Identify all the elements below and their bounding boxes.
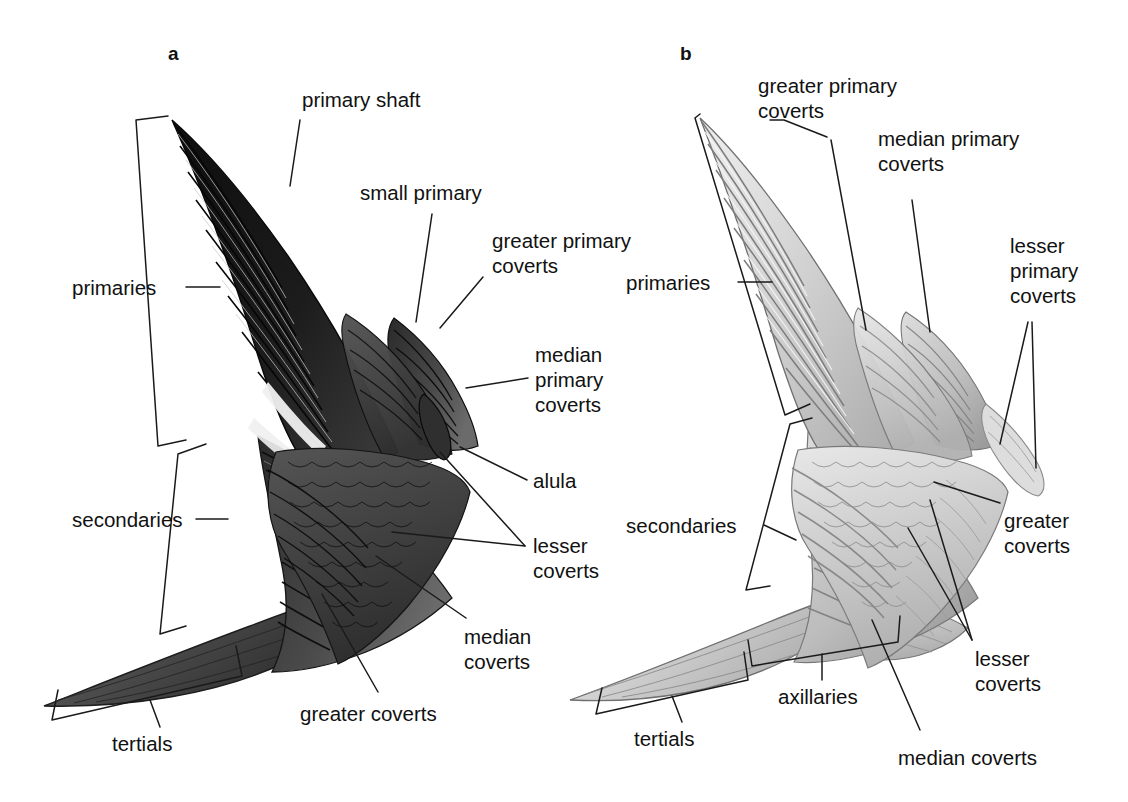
label-b-median-primary-coverts: median primary coverts — [878, 126, 1019, 176]
label-a-alula: alula — [533, 468, 576, 493]
label-b-greater-coverts: greater coverts — [1004, 508, 1070, 558]
label-b-median-coverts: median coverts — [898, 745, 1037, 770]
label-b-greater-primary-coverts: greater primary coverts — [758, 73, 897, 123]
label-a-primary-shaft: primary shaft — [302, 87, 420, 112]
leader-a-small-primary — [416, 214, 432, 322]
label-a-greater-primary-coverts: greater primary coverts — [492, 228, 631, 278]
leader-b-secondaries — [764, 525, 796, 540]
label-a-small-primary: small primary — [360, 180, 482, 205]
leader-b-lesser-primary-coverts-1 — [1000, 322, 1028, 444]
label-b-lesser-primary-coverts: lesser primary coverts — [1010, 233, 1078, 308]
label-a-lesser-coverts: lesser coverts — [533, 533, 599, 583]
leader-a-primary-shaft — [290, 120, 300, 186]
label-b-secondaries: secondaries — [626, 513, 737, 538]
wing-illustration-b — [570, 118, 1044, 701]
leader-b-median-primary-coverts — [912, 200, 930, 332]
figure-bird-wing-topography: a b primary shaft small primary greater … — [0, 0, 1128, 802]
leader-a-greater-primary-coverts — [440, 277, 483, 328]
leader-a-median-primary-coverts — [466, 378, 528, 388]
label-b-axillaries: axillaries — [778, 684, 858, 709]
label-b-primaries: primaries — [626, 270, 710, 295]
leader-a-tertials — [150, 700, 160, 727]
label-a-secondaries: secondaries — [72, 507, 183, 532]
label-a-greater-coverts: greater coverts — [300, 701, 437, 726]
leader-a-alula — [460, 447, 527, 480]
label-a-tertials: tertials — [112, 731, 172, 756]
panel-letter-b: b — [680, 44, 692, 63]
label-a-primaries: primaries — [72, 275, 156, 300]
panel-letter-a: a — [168, 44, 179, 63]
label-a-median-coverts: median coverts — [464, 624, 531, 674]
wing-illustration-a — [44, 120, 478, 706]
label-a-median-primary-coverts: median primary coverts — [535, 342, 603, 417]
leader-b-tertials — [672, 696, 682, 722]
bracket-a-secondaries — [160, 444, 206, 634]
label-b-lesser-coverts: lesser coverts — [975, 646, 1041, 696]
leader-b-lesser-primary-coverts-2 — [1032, 322, 1036, 468]
label-b-tertials: tertials — [634, 726, 694, 751]
